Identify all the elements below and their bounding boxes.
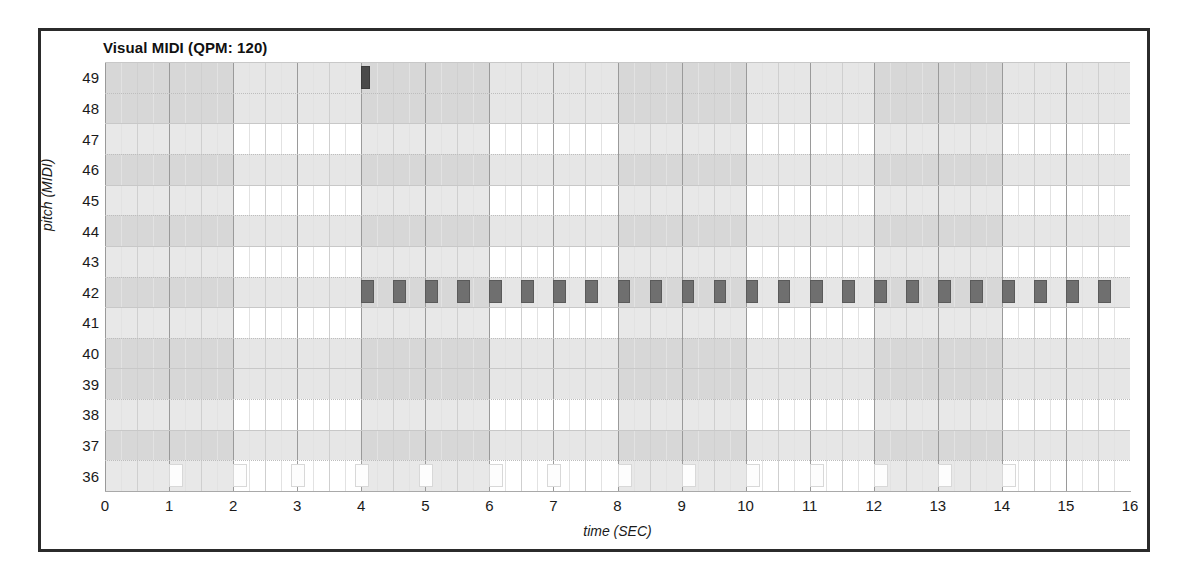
note-layer[interactable] <box>105 62 1130 491</box>
note-p42-7[interactable] <box>585 280 598 303</box>
x-tick-6: 6 <box>469 497 509 514</box>
y-tick-37: 37 <box>53 438 99 453</box>
note-p42-12[interactable] <box>746 280 759 303</box>
note-p36-8[interactable] <box>682 464 696 487</box>
x-tick-12: 12 <box>854 497 894 514</box>
x-tick-0: 0 <box>85 497 125 514</box>
x-tick-11: 11 <box>790 497 830 514</box>
note-p42-9[interactable] <box>650 280 663 303</box>
note-p36-12[interactable] <box>938 464 952 487</box>
x-tick-16: 16 <box>1110 497 1150 514</box>
x-tick-10: 10 <box>726 497 766 514</box>
note-p36-3[interactable] <box>355 464 369 487</box>
note-p42-1[interactable] <box>393 280 406 303</box>
note-p36-5[interactable] <box>489 464 503 487</box>
note-p42-10[interactable] <box>682 280 695 303</box>
note-p36-13[interactable] <box>1002 464 1016 487</box>
page-title: Visual MIDI (QPM: 120) <box>103 39 267 56</box>
y-tick-40: 40 <box>53 346 99 361</box>
note-p42-18[interactable] <box>938 280 951 303</box>
note-p36-4[interactable] <box>419 464 433 487</box>
note-p36-2[interactable] <box>291 464 305 487</box>
y-tick-44: 44 <box>53 224 99 239</box>
x-tick-13: 13 <box>918 497 958 514</box>
y-tick-49: 49 <box>53 70 99 85</box>
y-tick-45: 45 <box>53 193 99 208</box>
note-p42-16[interactable] <box>874 280 887 303</box>
note-p42-15[interactable] <box>842 280 855 303</box>
x-tick-9: 9 <box>662 497 702 514</box>
note-p42-23[interactable] <box>1098 280 1111 303</box>
note-p42-11[interactable] <box>714 280 727 303</box>
note-p42-20[interactable] <box>1002 280 1015 303</box>
note-p42-0[interactable] <box>361 280 374 303</box>
x-axis-line <box>105 491 1131 492</box>
note-p42-3[interactable] <box>457 280 470 303</box>
note-p36-11[interactable] <box>874 464 888 487</box>
note-p36-10[interactable] <box>810 464 824 487</box>
x-tick-4: 4 <box>341 497 381 514</box>
x-axis-label: time (SEC) <box>105 523 1130 539</box>
y-tick-36: 36 <box>53 469 99 484</box>
note-p42-2[interactable] <box>425 280 438 303</box>
y-tick-41: 41 <box>53 315 99 330</box>
y-tick-39: 39 <box>53 377 99 392</box>
note-p42-19[interactable] <box>970 280 983 303</box>
note-p42-21[interactable] <box>1034 280 1047 303</box>
note-p42-8[interactable] <box>618 280 631 303</box>
x-tick-14: 14 <box>982 497 1022 514</box>
y-tick-48: 48 <box>53 101 99 116</box>
y-tick-42: 42 <box>53 285 99 300</box>
note-p36-7[interactable] <box>618 464 632 487</box>
x-tick-3: 3 <box>277 497 317 514</box>
note-p42-22[interactable] <box>1066 280 1079 303</box>
y-tick-38: 38 <box>53 407 99 422</box>
note-p42-13[interactable] <box>778 280 791 303</box>
x-tick-15: 15 <box>1046 497 1086 514</box>
note-p36-6[interactable] <box>547 464 561 487</box>
x-tick-1: 1 <box>149 497 189 514</box>
note-p36-9[interactable] <box>746 464 760 487</box>
x-tick-5: 5 <box>405 497 445 514</box>
note-p49-0[interactable] <box>361 66 370 89</box>
note-p42-4[interactable] <box>489 280 502 303</box>
note-p36-1[interactable] <box>233 464 247 487</box>
x-axis-ticks: 012345678910111213141516 <box>105 497 1130 521</box>
y-tick-46: 46 <box>53 162 99 177</box>
piano-roll-plot[interactable] <box>105 62 1130 491</box>
x-tick-8: 8 <box>598 497 638 514</box>
y-tick-47: 47 <box>53 132 99 147</box>
note-p42-6[interactable] <box>553 280 566 303</box>
note-p42-17[interactable] <box>906 280 919 303</box>
note-p42-14[interactable] <box>810 280 823 303</box>
x-tick-2: 2 <box>213 497 253 514</box>
y-axis-ticks: 4948474645444342414039383736 <box>49 62 99 491</box>
note-p36-0[interactable] <box>169 464 183 487</box>
x-tick-7: 7 <box>533 497 573 514</box>
y-tick-43: 43 <box>53 254 99 269</box>
note-p42-5[interactable] <box>521 280 534 303</box>
figure-frame: Visual MIDI (QPM: 120) pitch (MIDI) time… <box>38 28 1150 552</box>
